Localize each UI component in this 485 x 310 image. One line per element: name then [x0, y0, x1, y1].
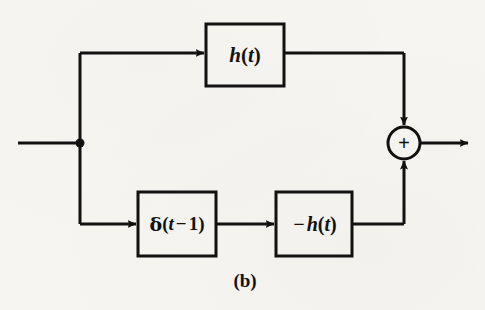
summing-junction-plus-sign: + — [388, 127, 420, 159]
block-neg-h-open-paren: ( — [318, 213, 325, 236]
block-neg-h-close-paren: ) — [330, 213, 337, 236]
block-delay-minus-operator: − — [174, 213, 189, 235]
block-h-var: h — [229, 43, 241, 68]
block-neg-h-label: −h(t) — [276, 192, 352, 256]
block-delay-close-paren: ) — [198, 213, 204, 235]
block-delay-shift-amount: 1 — [189, 213, 199, 235]
block-h-label: h(t) — [206, 24, 284, 86]
block-h-open-paren: ( — [241, 43, 248, 68]
block-delay-label: δ(t−1) — [138, 192, 216, 256]
figure-caption: (b) — [205, 270, 285, 292]
delta-symbol: δ — [150, 213, 163, 235]
branch-point-dot — [76, 139, 85, 148]
block-neg-h-var: h — [307, 213, 318, 236]
block-neg-h-sign: − — [291, 213, 306, 236]
block-h-close-paren: ) — [254, 43, 261, 68]
block-diagram-figure: h(t) δ(t−1) −h(t) + (b) — [0, 0, 485, 310]
